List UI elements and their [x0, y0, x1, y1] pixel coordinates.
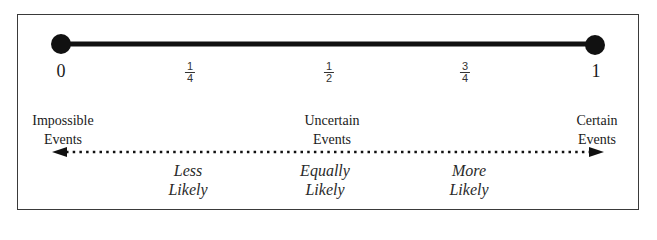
label-line: Equally: [300, 161, 350, 180]
equally-likely-label: Equally Likely: [300, 161, 350, 199]
less-likely-label: Less Likely: [168, 161, 207, 199]
label-line: Uncertain: [304, 111, 359, 130]
label-line: Less: [168, 161, 207, 180]
label-line: Likely: [168, 180, 207, 199]
label-line: Events: [32, 130, 93, 149]
tick-label-one: 1: [592, 62, 601, 81]
label-line: Events: [576, 130, 617, 149]
impossible-events-label: Impossible Events: [32, 111, 93, 149]
fraction-denominator: 2: [324, 73, 334, 84]
tick-label-one-half: 1 2: [324, 61, 334, 84]
tick-label-one-quarter: 1 4: [185, 61, 195, 84]
fraction-denominator: 4: [460, 73, 470, 84]
uncertain-events-label: Uncertain Events: [304, 111, 359, 149]
tick-label-three-quarters: 3 4: [460, 61, 470, 84]
label-line: Impossible: [32, 111, 93, 130]
label-line: Likely: [449, 180, 488, 199]
label-line: More: [449, 161, 488, 180]
label-line: Events: [304, 130, 359, 149]
more-likely-label: More Likely: [449, 161, 488, 199]
start-dot-icon: [51, 34, 71, 54]
label-line: Likely: [300, 180, 350, 199]
end-dot-icon: [585, 35, 605, 55]
certain-events-label: Certain Events: [576, 111, 617, 149]
label-line: Certain: [576, 111, 617, 130]
tick-label-zero: 0: [57, 62, 66, 81]
fraction-denominator: 4: [185, 73, 195, 84]
